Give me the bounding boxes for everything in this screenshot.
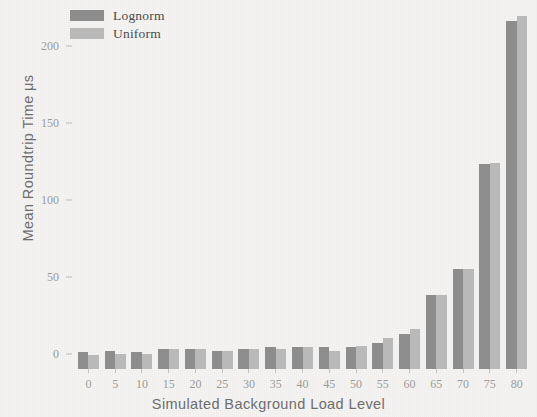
bar-group [236, 10, 263, 369]
bar-series-container [75, 10, 530, 369]
x-axis-tick-label: 40 [289, 377, 316, 392]
x-axis-tick-mark [168, 369, 169, 373]
y-axis-tick-label: 50 [47, 269, 59, 284]
y-axis-tick-mark [66, 199, 72, 200]
y-axis-tick-mark [66, 45, 72, 46]
x-axis-tick-mark [516, 369, 517, 373]
bar-lognorm-0[interactable] [78, 352, 89, 369]
x-axis-tick-mark [356, 369, 357, 373]
bar-lognorm-75[interactable] [479, 164, 490, 369]
bar-uniform-65[interactable] [436, 295, 447, 369]
y-axis-tick-label: 150 [41, 115, 59, 130]
x-axis-tick-label: 30 [236, 377, 263, 392]
bar-uniform-5[interactable] [115, 354, 126, 369]
bar-group [476, 10, 503, 369]
bar-uniform-40[interactable] [303, 347, 314, 369]
y-axis-tick-mark [66, 276, 72, 277]
x-axis-tick-label: 5 [102, 377, 129, 392]
x-axis-tick-mark [382, 369, 383, 373]
bar-lognorm-30[interactable] [238, 349, 249, 369]
x-axis-tick-mark [222, 369, 223, 373]
x-axis-tick-labels: 05101520253035404550556065707580 [75, 377, 530, 392]
bar-group [450, 10, 477, 369]
bar-group [423, 10, 450, 369]
bar-lognorm-70[interactable] [453, 269, 464, 369]
bar-uniform-10[interactable] [142, 354, 153, 369]
bar-group [262, 10, 289, 369]
bar-uniform-30[interactable] [249, 349, 260, 369]
x-axis-tick-label: 35 [262, 377, 289, 392]
x-axis-tick [75, 369, 102, 377]
x-axis-tick [369, 369, 396, 377]
bar-uniform-70[interactable] [463, 269, 474, 369]
x-axis-title: Simulated Background Load Level [0, 396, 537, 412]
x-axis-tick [236, 369, 263, 377]
bar-lognorm-65[interactable] [426, 295, 437, 369]
x-axis-tick-label: 65 [423, 377, 450, 392]
x-axis-tick-label: 80 [503, 377, 530, 392]
bar-uniform-50[interactable] [356, 346, 367, 369]
x-axis-ticks [75, 369, 530, 377]
bar-lognorm-35[interactable] [265, 347, 276, 369]
x-axis-tick-mark [409, 369, 410, 373]
x-axis-tick [262, 369, 289, 377]
x-axis-tick-mark [88, 369, 89, 373]
x-axis-tick-mark [275, 369, 276, 373]
bar-lognorm-80[interactable] [506, 21, 517, 369]
x-axis-tick [316, 369, 343, 377]
bar-uniform-15[interactable] [169, 349, 180, 369]
bar-lognorm-55[interactable] [372, 343, 383, 369]
bar-group [209, 10, 236, 369]
x-axis-tick-mark [302, 369, 303, 373]
bar-group [343, 10, 370, 369]
x-axis-tick-mark [195, 369, 196, 373]
y-axis-tick: 50 [47, 269, 75, 284]
y-axis-tick-label: 200 [41, 38, 59, 53]
bar-uniform-0[interactable] [88, 355, 99, 369]
x-axis-tick-mark [115, 369, 116, 373]
y-axis-tick-mark [66, 354, 72, 355]
x-axis-tick [102, 369, 129, 377]
x-axis-tick [182, 369, 209, 377]
x-axis-tick [289, 369, 316, 377]
bar-uniform-25[interactable] [222, 351, 233, 369]
bar-lognorm-5[interactable] [105, 351, 116, 369]
y-axis-tick-label: 0 [53, 347, 59, 362]
x-axis-tick [450, 369, 477, 377]
bar-lognorm-25[interactable] [212, 351, 223, 369]
x-axis-tick-label: 50 [343, 377, 370, 392]
x-axis-tick [209, 369, 236, 377]
bar-uniform-55[interactable] [383, 338, 394, 369]
bar-uniform-45[interactable] [329, 351, 340, 369]
x-axis-tick-mark [141, 369, 142, 373]
bar-lognorm-50[interactable] [346, 347, 357, 369]
bar-group [129, 10, 156, 369]
x-axis-tick-label: 75 [476, 377, 503, 392]
bar-lognorm-10[interactable] [131, 352, 142, 369]
x-axis-tick-mark [248, 369, 249, 373]
x-axis-tick-mark [436, 369, 437, 373]
bar-uniform-80[interactable] [517, 16, 528, 369]
bar-lognorm-45[interactable] [319, 347, 330, 369]
x-axis-tick-label: 45 [316, 377, 343, 392]
x-axis-tick-label: 0 [75, 377, 102, 392]
bar-lognorm-40[interactable] [292, 347, 303, 369]
bar-group [369, 10, 396, 369]
bar-uniform-20[interactable] [195, 349, 206, 369]
x-axis-tick-mark [463, 369, 464, 373]
bar-group [102, 10, 129, 369]
bar-lognorm-20[interactable] [185, 349, 196, 369]
bar-lognorm-60[interactable] [399, 334, 410, 369]
bar-group [75, 10, 102, 369]
x-axis-tick [343, 369, 370, 377]
x-axis-tick [155, 369, 182, 377]
y-axis-tick: 150 [41, 115, 75, 130]
chart-page: Lognorm Uniform Mean Roundtrip Time μs 0… [0, 0, 537, 417]
bar-uniform-75[interactable] [490, 163, 501, 369]
x-axis-tick-label: 10 [129, 377, 156, 392]
bar-group [182, 10, 209, 369]
x-axis-tick-label: 55 [369, 377, 396, 392]
bar-lognorm-15[interactable] [158, 349, 169, 369]
bar-uniform-60[interactable] [410, 329, 421, 369]
bar-uniform-35[interactable] [276, 349, 287, 369]
